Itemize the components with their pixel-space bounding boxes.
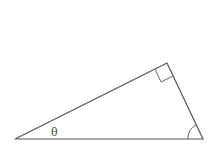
angle-arc-bottom-right: [188, 125, 196, 139]
triangle-diagram: θ: [0, 0, 218, 151]
triangle-outline: [15, 63, 203, 139]
theta-label: θ: [51, 126, 58, 139]
